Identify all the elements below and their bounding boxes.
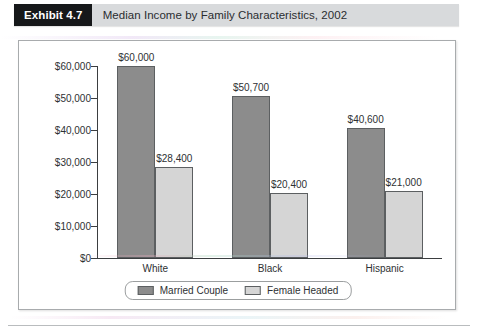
y-axis-tick-label: $60,000 — [55, 61, 91, 72]
legend-swatch-icon — [138, 286, 154, 295]
bar[interactable] — [270, 193, 308, 258]
exhibit-number-badge: Exhibit 4.7 — [14, 4, 92, 26]
chart-frame: $0$10,000$20,000$30,000$40,000$50,000$60… — [18, 40, 456, 310]
legend-swatch-icon — [245, 286, 261, 295]
bar-value-label: $20,400 — [271, 179, 307, 190]
bar-value-label: $21,000 — [386, 177, 422, 188]
bar[interactable] — [347, 128, 385, 258]
y-axis-tick-label: $20,000 — [55, 189, 91, 200]
y-axis-tick-mark — [91, 66, 97, 67]
y-axis-tick-mark — [91, 130, 97, 131]
legend-entry[interactable]: Female Headed — [245, 285, 338, 296]
legend-label: Married Couple — [160, 285, 228, 296]
exhibit-header: Exhibit 4.7 Median Income by Family Char… — [14, 4, 459, 26]
bar-value-label: $50,700 — [233, 82, 269, 93]
bar-value-label: $60,000 — [118, 52, 154, 63]
y-axis-tick-label: $0 — [80, 253, 91, 264]
y-axis-tick-mark — [91, 226, 97, 227]
bar-value-label: $40,600 — [348, 114, 384, 125]
page-divider-rule — [8, 325, 470, 326]
chart-legend: Married CoupleFemale Headed — [125, 281, 352, 300]
bar-value-label: $28,400 — [156, 153, 192, 164]
x-axis-category-label: White — [143, 263, 169, 274]
bar[interactable] — [155, 167, 193, 258]
chart-plot-wrapper: $0$10,000$20,000$30,000$40,000$50,000$60… — [19, 41, 457, 311]
legend-label: Female Headed — [267, 285, 338, 296]
y-axis-tick-label: $30,000 — [55, 157, 91, 168]
y-axis-tick-mark — [91, 258, 97, 259]
bar-group: $50,700$20,400 — [232, 66, 308, 258]
y-axis-tick-mark — [91, 98, 97, 99]
y-axis-tick-mark — [91, 194, 97, 195]
x-axis-category-label: Hispanic — [365, 263, 403, 274]
bar-group: $60,000$28,400 — [117, 66, 193, 258]
x-axis-category-label: Black — [258, 263, 282, 274]
bars-area: $60,000$28,400$50,700$20,400$40,600$21,0… — [98, 66, 442, 258]
scan-artifact-bottom — [10, 316, 465, 319]
bar[interactable] — [385, 191, 423, 258]
y-axis-tick-label: $10,000 — [55, 221, 91, 232]
y-axis-tick-label: $40,000 — [55, 125, 91, 136]
bar[interactable] — [117, 66, 155, 258]
bar-group: $40,600$21,000 — [347, 66, 423, 258]
legend-entry[interactable]: Married Couple — [138, 285, 228, 296]
y-axis-tick-mark — [91, 162, 97, 163]
y-axis-tick-label: $50,000 — [55, 93, 91, 104]
scan-artifact-top — [0, 36, 477, 39]
y-axis-tick-labels: $0$10,000$20,000$30,000$40,000$50,000$60… — [19, 41, 91, 311]
exhibit-title: Median Income by Family Characteristics,… — [92, 4, 348, 26]
x-axis-line — [97, 258, 442, 259]
bar[interactable] — [232, 96, 270, 258]
